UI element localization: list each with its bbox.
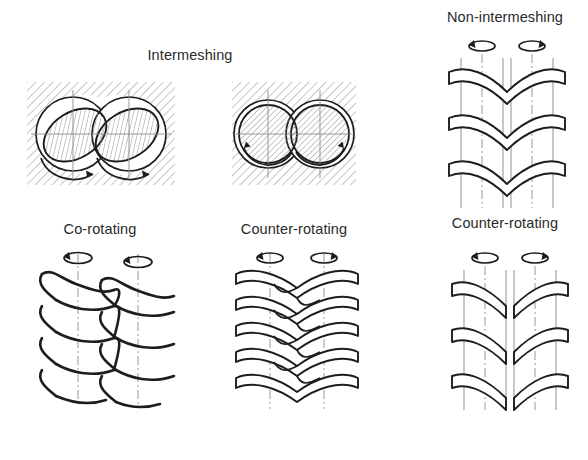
- cross-section-counter-rotating: [232, 82, 356, 185]
- flight-right-1: [514, 282, 568, 318]
- helix-right: [100, 278, 174, 407]
- flight-row-1: [449, 69, 565, 104]
- helix-right: [514, 282, 568, 410]
- heading-non-intermeshing: Non-intermeshing: [447, 10, 563, 25]
- flight-row-2: [449, 115, 565, 150]
- flight-left-3: [452, 374, 506, 410]
- helix-left: [452, 282, 506, 410]
- screw-pair-non-intermeshing-bottom: [448, 244, 572, 412]
- label-counter-rotating-right: Counter-rotating: [452, 216, 558, 231]
- flight-row-3: [236, 323, 358, 350]
- flight-row-1: [236, 271, 358, 298]
- centerlines: [78, 254, 138, 404]
- flight-row-2: [236, 297, 358, 324]
- flight-right-3: [514, 374, 568, 410]
- flight-right-2: [514, 328, 568, 364]
- flights: [236, 271, 358, 402]
- figure-canvas: Intermeshing: [0, 0, 588, 460]
- label-co-rotating: Co-rotating: [64, 222, 137, 237]
- flight-row-3: [449, 161, 565, 196]
- flight-left-2: [452, 328, 506, 364]
- screw-pair-non-intermeshing-top: [445, 32, 569, 210]
- flights: [449, 69, 565, 196]
- flight-left-1: [452, 282, 506, 318]
- cross-section-co-rotating: [27, 82, 175, 185]
- screw-pair-counter-rotating-intermeshing: [228, 244, 368, 412]
- flight-row-5: [236, 375, 358, 402]
- helix-left: [40, 272, 119, 403]
- heading-intermeshing: Intermeshing: [147, 48, 232, 63]
- flight-row-4: [236, 349, 358, 376]
- screw-pair-co-rotating: [30, 244, 180, 409]
- label-counter-rotating-middle: Counter-rotating: [241, 222, 347, 237]
